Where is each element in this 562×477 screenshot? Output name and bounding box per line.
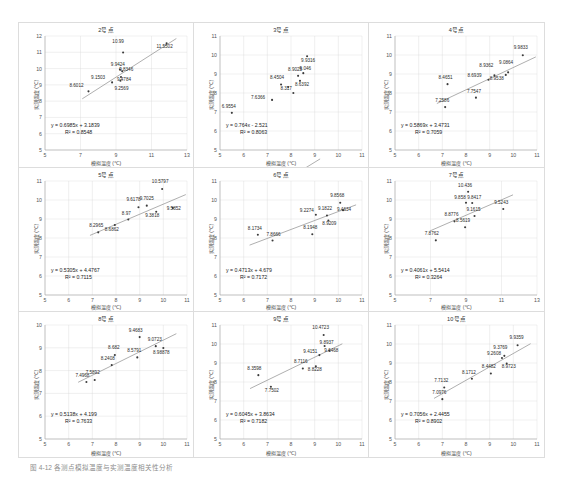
svg-text:13: 13 <box>534 297 540 303</box>
svg-text:8: 8 <box>290 297 293 303</box>
svg-text:R² = 0.7182: R² = 0.7182 <box>240 419 267 425</box>
svg-text:9.2608: 9.2608 <box>487 351 501 356</box>
svg-text:11: 11 <box>534 441 539 447</box>
svg-text:5: 5 <box>214 292 217 298</box>
svg-text:7: 7 <box>429 297 432 303</box>
svg-text:5: 5 <box>219 152 222 158</box>
svg-text:8.1734: 8.1734 <box>248 225 262 230</box>
svg-text:8.98878: 8.98878 <box>153 350 170 355</box>
svg-text:9: 9 <box>138 441 141 447</box>
svg-text:7: 7 <box>441 152 444 158</box>
svg-text:6: 6 <box>214 417 217 423</box>
svg-text:6: 6 <box>39 414 42 420</box>
svg-text:y = 0.7056x + 2.4455: y = 0.7056x + 2.4455 <box>401 412 450 418</box>
svg-text:7: 7 <box>441 441 444 447</box>
svg-text:R² = 0.7059: R² = 0.7059 <box>415 129 442 135</box>
svg-text:10: 10 <box>386 197 392 203</box>
svg-text:10.436: 10.436 <box>458 182 472 187</box>
svg-text:9.6468: 9.6468 <box>324 348 338 353</box>
svg-text:y = 0.5138x + 4.199: y = 0.5138x + 4.199 <box>51 412 97 418</box>
svg-text:7.8762: 7.8762 <box>425 231 439 236</box>
svg-text:7.2586: 7.2586 <box>435 98 449 103</box>
svg-text:7.7547: 7.7547 <box>467 89 481 94</box>
svg-text:10: 10 <box>36 322 42 328</box>
svg-text:y = 0.6985x + 3.1839: y = 0.6985x + 3.1839 <box>51 122 100 128</box>
plot-area: 56789101157911137.87628.87768.56199.8581… <box>369 168 544 313</box>
svg-text:9: 9 <box>214 216 217 222</box>
svg-text:9.0723: 9.0723 <box>148 337 162 342</box>
svg-text:7: 7 <box>214 398 217 404</box>
chart-cell-6: 7号点实测温度 (℃)模拟温度 (℃)56789101157911137.876… <box>369 168 544 313</box>
plot-area: 5678910115678910117.09767.71328.17128.44… <box>369 312 544 457</box>
svg-text:9.9316: 9.9316 <box>301 58 315 63</box>
svg-text:5: 5 <box>394 441 397 447</box>
svg-text:7: 7 <box>91 297 94 303</box>
svg-text:9.8417: 9.8417 <box>467 195 481 200</box>
scatter-panel: 6号点实测温度 (℃)模拟温度 (℃)5678910115678910118.1… <box>194 168 368 312</box>
svg-text:8.1948: 8.1948 <box>303 225 317 230</box>
svg-text:9.4151: 9.4151 <box>303 349 317 354</box>
svg-text:6: 6 <box>389 417 392 423</box>
svg-text:10: 10 <box>510 441 516 447</box>
svg-text:11.5502: 11.5502 <box>156 44 173 49</box>
svg-text:6: 6 <box>67 441 70 447</box>
svg-text:5: 5 <box>44 297 47 303</box>
svg-text:8: 8 <box>214 90 217 96</box>
svg-text:10: 10 <box>335 441 341 447</box>
svg-text:5: 5 <box>44 152 47 158</box>
svg-text:y = 0.764x - 2.521: y = 0.764x - 2.521 <box>226 122 268 128</box>
plot-area: 5678910111257911138.60129.15039.83469.47… <box>19 23 194 168</box>
svg-text:8.6012: 8.6012 <box>69 83 83 88</box>
svg-text:5: 5 <box>214 147 217 153</box>
svg-text:9: 9 <box>389 71 392 77</box>
chart-cell-5: 6号点实测温度 (℃)模拟温度 (℃)5678910115678910118.1… <box>194 168 369 313</box>
plot-area: 5678910115678910118.17347.86668.19489.22… <box>194 168 369 313</box>
svg-text:R² = 0.3264: R² = 0.3264 <box>415 274 442 280</box>
svg-text:9.046: 9.046 <box>300 66 312 71</box>
svg-text:y = 0.4061x + 5.5414: y = 0.4061x + 5.5414 <box>401 267 450 273</box>
svg-text:7: 7 <box>266 441 269 447</box>
svg-text:11: 11 <box>387 33 392 39</box>
svg-text:y = 0.4713x + 4.679: y = 0.4713x + 4.679 <box>226 267 272 273</box>
svg-text:5: 5 <box>394 297 397 303</box>
plot-area: 5678910115678910117.25868.46517.75478.69… <box>369 23 544 168</box>
svg-text:9.3818: 9.3818 <box>145 212 159 217</box>
svg-text:8.2965: 8.2965 <box>89 223 103 228</box>
svg-text:9.4683: 9.4683 <box>129 328 143 333</box>
svg-text:R² = 0.7172: R² = 0.7172 <box>240 274 267 280</box>
svg-text:7.7132: 7.7132 <box>434 379 448 384</box>
svg-text:7.8666: 7.8666 <box>267 231 281 236</box>
scatter-panel: 3号点实测温度 (℃)模拟温度 (℃)5678910115678910116.9… <box>194 23 368 167</box>
svg-text:10: 10 <box>160 441 166 447</box>
svg-text:9.7025: 9.7025 <box>140 195 154 200</box>
scatter-panel: 7号点实测温度 (℃)模拟温度 (℃)56789101157911137.876… <box>369 168 544 312</box>
chart-cell-3: 4号点实测温度 (℃)模拟温度 (℃)5678910115678910117.2… <box>369 23 544 168</box>
svg-text:9: 9 <box>214 360 217 366</box>
svg-text:R² = 0.8902: R² = 0.8902 <box>415 419 442 425</box>
scatter-panel: 4号点实测温度 (℃)模拟温度 (℃)5678910115678910117.2… <box>369 23 544 167</box>
svg-text:8.6392: 8.6392 <box>295 82 309 87</box>
svg-text:y = 0.5869x + 3.4731: y = 0.5869x + 3.4731 <box>401 122 450 128</box>
svg-text:R² = 0.8548: R² = 0.8548 <box>65 129 92 135</box>
svg-text:11: 11 <box>212 322 217 328</box>
svg-text:5: 5 <box>389 147 392 153</box>
svg-text:8: 8 <box>214 379 217 385</box>
svg-text:11: 11 <box>387 322 392 328</box>
chart-cell-7: 8号点实测温度 (℃)模拟温度 (℃)56789105678910117.496… <box>19 312 194 457</box>
svg-text:5: 5 <box>219 441 222 447</box>
svg-text:8.8228: 8.8228 <box>308 368 322 373</box>
plot-area: 5678910115678910118.35987.75028.71168.82… <box>194 312 369 457</box>
svg-text:8: 8 <box>39 368 42 374</box>
plot-area: 5678910115678910116.95547.63668.45048.31… <box>194 23 369 168</box>
svg-text:6: 6 <box>417 441 420 447</box>
svg-text:9.858: 9.858 <box>454 194 466 199</box>
svg-text:6: 6 <box>242 152 245 158</box>
svg-text:11: 11 <box>359 297 364 303</box>
figure-caption: 图 4-12 各测点模拟温度与实测温度相关性分析 <box>30 462 360 472</box>
svg-text:10.5797: 10.5797 <box>152 179 169 184</box>
svg-text:8: 8 <box>115 441 118 447</box>
svg-text:9: 9 <box>313 297 316 303</box>
svg-text:11: 11 <box>387 178 392 184</box>
svg-text:9: 9 <box>214 71 217 77</box>
svg-text:7: 7 <box>79 152 82 158</box>
